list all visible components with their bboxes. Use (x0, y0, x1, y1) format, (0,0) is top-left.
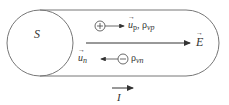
negative-density-label: ρvn (131, 53, 144, 65)
conductor-diagram (0, 0, 229, 105)
current-label: I (117, 92, 121, 103)
positive-velocity-symbol: u (128, 20, 133, 30)
field-label: E (196, 36, 203, 48)
positive-charge-label: up, ρvp (128, 20, 155, 32)
surface-label: S (34, 28, 40, 40)
cross-section-circle (7, 10, 73, 76)
negative-velocity-label: un (78, 53, 87, 65)
